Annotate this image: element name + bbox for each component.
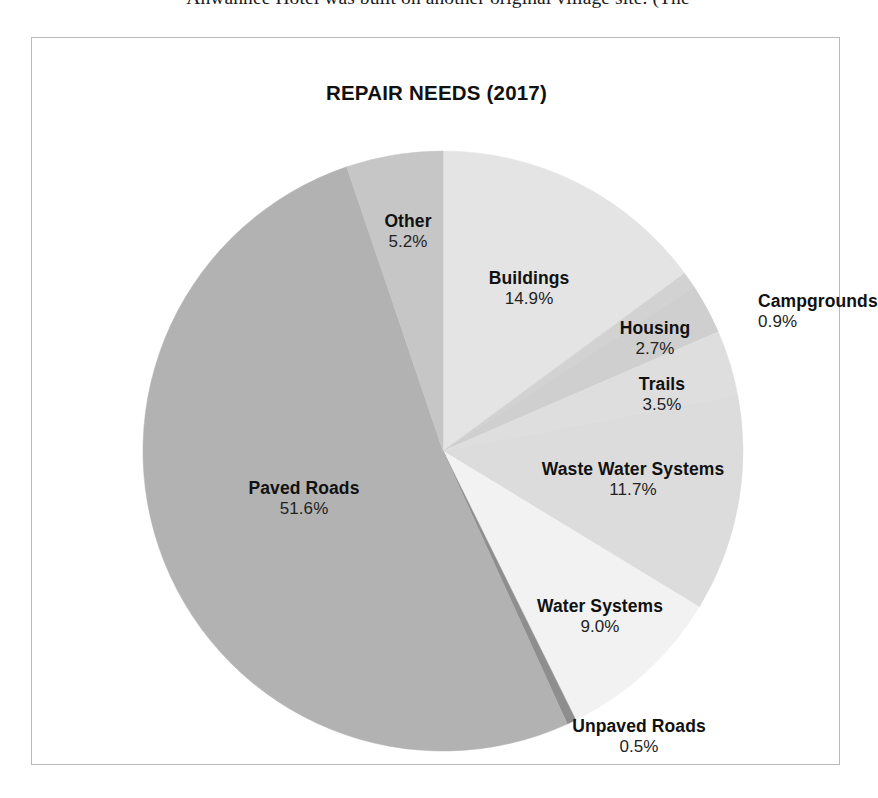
pie-slice-label-name: Waste Water Systems bbox=[542, 460, 724, 480]
pie-slice-label-value: 9.0% bbox=[537, 617, 663, 636]
pie-slice-label: Housing2.7% bbox=[620, 319, 691, 358]
pie-slice-label: Unpaved Roads0.5% bbox=[572, 717, 706, 756]
pie-slice-label-name: Unpaved Roads bbox=[572, 717, 706, 737]
pie-slice-label-name: Paved Roads bbox=[248, 479, 359, 499]
figure-frame: REPAIR NEEDS (2017) Buildings14.9%Campgr… bbox=[31, 37, 840, 765]
pie-slice-label-name: Trails bbox=[639, 375, 685, 395]
pie-slice-label-value: 11.7% bbox=[542, 480, 724, 499]
pie-slice-label: Waste Water Systems11.7% bbox=[542, 460, 724, 499]
pie-slice-label-name: Other bbox=[384, 212, 431, 232]
pie-slice-label-name: Housing bbox=[620, 319, 691, 339]
pie-slice-label: Other5.2% bbox=[384, 212, 431, 251]
pie-slice-label-name: Water Systems bbox=[537, 597, 663, 617]
pie-slice-label-value: 0.5% bbox=[572, 737, 706, 756]
pie-slice-label: Trails3.5% bbox=[639, 375, 685, 414]
pie-slice-label-name: Campgrounds bbox=[758, 292, 878, 312]
pie-slice-label-value: 0.9% bbox=[758, 312, 878, 331]
pie-slice-label: Campgrounds0.9% bbox=[758, 292, 878, 331]
page-body-text-fragment: Ahwahnee Hotel was built on another orig… bbox=[0, 0, 876, 13]
pie-slice-label-value: 51.6% bbox=[248, 499, 359, 518]
pie-slice-label-value: 14.9% bbox=[489, 289, 570, 308]
pie-chart bbox=[32, 38, 841, 766]
pie-slice-label: Water Systems9.0% bbox=[537, 597, 663, 636]
pie-slice-label-name: Buildings bbox=[489, 269, 570, 289]
pie-slice-label: Paved Roads51.6% bbox=[248, 479, 359, 518]
pie-slice-label-value: 5.2% bbox=[384, 232, 431, 251]
pie-slice-label-value: 2.7% bbox=[620, 339, 691, 358]
pie-slice-label-value: 3.5% bbox=[639, 395, 685, 414]
pie-slice-group bbox=[143, 151, 743, 751]
pie-slice-label: Buildings14.9% bbox=[489, 269, 570, 308]
